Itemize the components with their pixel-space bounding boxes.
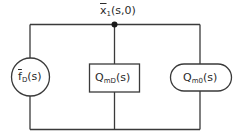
- junction-node-dot: [112, 22, 118, 28]
- rounded-label-args: (s): [203, 71, 217, 84]
- node-label-args: (s,0): [111, 4, 136, 17]
- circuit-diagram: [0, 0, 243, 136]
- rectangle-label-args: (s): [116, 71, 130, 84]
- rounded-label: Qm0(s): [183, 72, 217, 84]
- rounded-label-base: Q: [183, 71, 192, 84]
- node-label: x1(s,0): [100, 5, 136, 17]
- rectangle-label-subscript: mD: [104, 77, 116, 85]
- rectangle-label-base: Q: [95, 71, 104, 84]
- source-label-args: (s): [27, 70, 41, 83]
- rounded-label-subscript: m0: [192, 77, 203, 85]
- rectangle-label: QmD(s): [95, 72, 130, 84]
- source-label: fD(s): [18, 71, 42, 83]
